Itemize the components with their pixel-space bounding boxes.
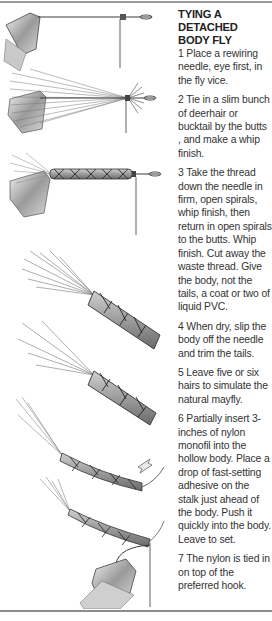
step-6: 6 Partially insert 3-inches of nylon mon… — [178, 412, 272, 546]
step-5: 5 Leave five or six hairs to simulate th… — [178, 366, 272, 406]
illustration-step-4 — [22, 251, 160, 349]
step-3: 3 Take the thread down the needle in fir… — [178, 166, 272, 313]
illustration-step-1 — [4, 13, 152, 71]
instructions-column: TYING A DETACHED BODY FLY 1 Place a rewi… — [178, 8, 272, 592]
step-4: 4 When dry, slip the body off the needle… — [178, 320, 272, 360]
illustration-step-2 — [8, 69, 156, 133]
illustrations-column — [0, 3, 172, 609]
illustration-step-3 — [10, 153, 161, 235]
bottom-rule — [0, 610, 272, 612]
title-line-1: TYING A — [178, 8, 272, 21]
step-7: 7 The nylon is tied in on top of the pre… — [178, 552, 272, 592]
step-1: 1 Place a rewiring needle, eye first, in… — [178, 47, 272, 87]
arrow-icon — [138, 459, 152, 473]
title-line-2: DETACHED — [178, 21, 272, 34]
title-line-3: BODY FLY — [178, 34, 272, 47]
illustration-step-7 — [40, 477, 164, 609]
step-2: 2 Tie in a slim bunch of deerhair or buc… — [178, 93, 272, 160]
